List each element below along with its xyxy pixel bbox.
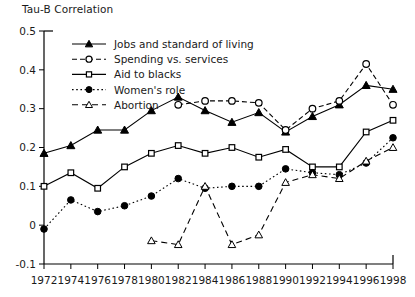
data-series-layer [40,61,397,248]
y-tick-label: 0.2 [19,141,36,153]
legend-label: Spending vs. services [114,53,228,65]
x-tick-label: 1990 [272,274,299,286]
x-tick-label: 1976 [84,274,111,286]
y-tick-label: 0 [29,219,36,231]
x-tick-label: 1982 [165,274,192,286]
data-series [148,144,397,248]
y-axis-ticks: 0.50.40.30.20.10-0.1 [16,25,45,270]
x-tick-label: 1984 [192,274,219,286]
legend-label: Jobs and standard of living [113,38,254,50]
chart-container: Tau-B Correlation 0.50.40.30.20.10-0.1 1… [0,0,415,297]
x-axis-ticks: 1972197419761978198019821984198619881990… [31,264,407,286]
x-tick-label: 1974 [57,274,84,286]
data-series [175,61,396,134]
data-series [41,134,397,232]
x-tick-label: 1992 [299,274,326,286]
y-tick-label: -0.1 [16,258,37,270]
chart-plot-area: 0.50.40.30.20.10-0.1 1972197419761978198… [0,0,415,297]
x-tick-label: 1994 [326,274,353,286]
legend-item: Spending vs. services [72,53,228,65]
legend-label: Abortion [114,99,159,111]
legend-item: Jobs and standard of living [72,38,254,50]
legend-item: Women's role [72,84,185,96]
y-tick-label: 0.1 [19,180,36,192]
x-tick-label: 1986 [219,274,246,286]
chart-legend: Jobs and standard of livingSpending vs. … [72,38,254,111]
legend-label: Women's role [114,84,185,96]
legend-label: Aid to blacks [114,68,181,80]
axis-lines [44,31,393,264]
x-tick-label: 1988 [245,274,272,286]
x-tick-label: 1998 [380,274,407,286]
data-series [40,81,397,156]
y-tick-label: 0.3 [19,102,36,114]
legend-item: Aid to blacks [72,68,181,80]
x-tick-label: 1972 [31,274,58,286]
y-tick-label: 0.4 [19,64,36,76]
x-tick-label: 1978 [111,274,138,286]
x-tick-label: 1996 [353,274,380,286]
y-tick-label: 0.5 [19,25,36,37]
legend-item: Abortion [72,99,159,111]
x-tick-label: 1980 [138,274,165,286]
